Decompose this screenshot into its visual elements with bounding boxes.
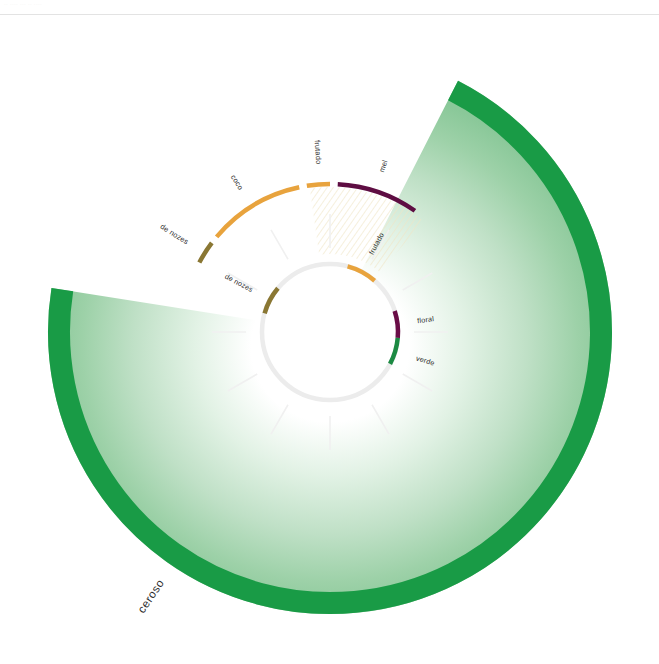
middle-ring-arc[interactable] xyxy=(217,187,300,237)
outer-ring-label: ceroso xyxy=(135,577,166,615)
radial-sensory-wheel: de nozescocofrutadomelfrutadofloralverde… xyxy=(0,0,659,664)
middle-ring-arc[interactable] xyxy=(199,243,211,263)
inner-ring-arc[interactable] xyxy=(265,288,278,313)
middle-ring-label: mel xyxy=(377,159,389,174)
outer-ring-group xyxy=(48,81,612,614)
middle-ring-label: frutado xyxy=(313,140,324,165)
chart-stage: ·· ···· ··· ·· ···· de nozescocofrutadom… xyxy=(0,0,659,664)
middle-ring-label: de nozes xyxy=(159,222,191,246)
inner-ring-label: de nozes xyxy=(223,272,255,294)
middle-ring-label: coco xyxy=(229,173,245,192)
radial-spoke xyxy=(271,230,288,259)
middle-ring-arc[interactable] xyxy=(307,184,330,186)
